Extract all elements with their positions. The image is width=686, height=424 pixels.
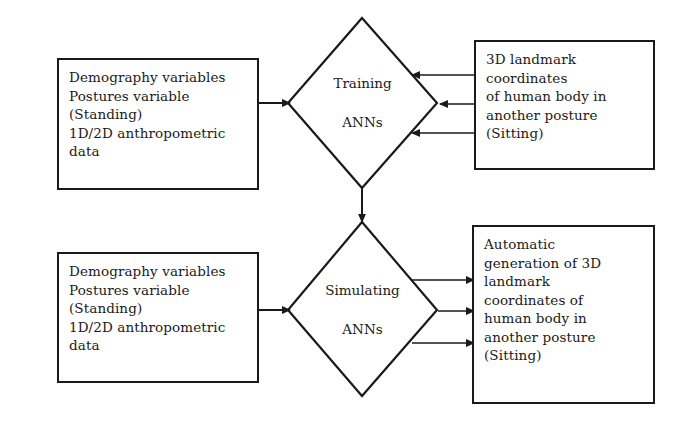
simulating-diamond-label-line2: ANNs — [288, 321, 437, 337]
sim-outputs-box: Automatic generation of 3D landmark coor… — [472, 225, 655, 404]
training-diamond-label-line2: ANNs — [288, 114, 437, 130]
sim-outputs-text: Automatic generation of 3D landmark coor… — [484, 235, 649, 365]
simulating-diamond: Simulating ANNs — [288, 222, 437, 396]
sim-inputs-text: Demography variables Postures variable (… — [69, 262, 253, 355]
training-diamond: Training ANNs — [288, 18, 437, 188]
sim-inputs-box: Demography variables Postures variable (… — [57, 252, 259, 383]
train-inputs-box: Demography variables Postures variable (… — [57, 58, 259, 190]
train-targets-text: 3D landmark coordinates of human body in… — [486, 50, 649, 143]
training-diamond-label-line1: Training — [288, 75, 437, 91]
train-inputs-text: Demography variables Postures variable (… — [69, 68, 253, 161]
simulating-diamond-label-line1: Simulating — [288, 282, 437, 298]
flowchart-canvas: Demography variables Postures variable (… — [0, 0, 686, 424]
train-targets-box: 3D landmark coordinates of human body in… — [474, 40, 655, 170]
